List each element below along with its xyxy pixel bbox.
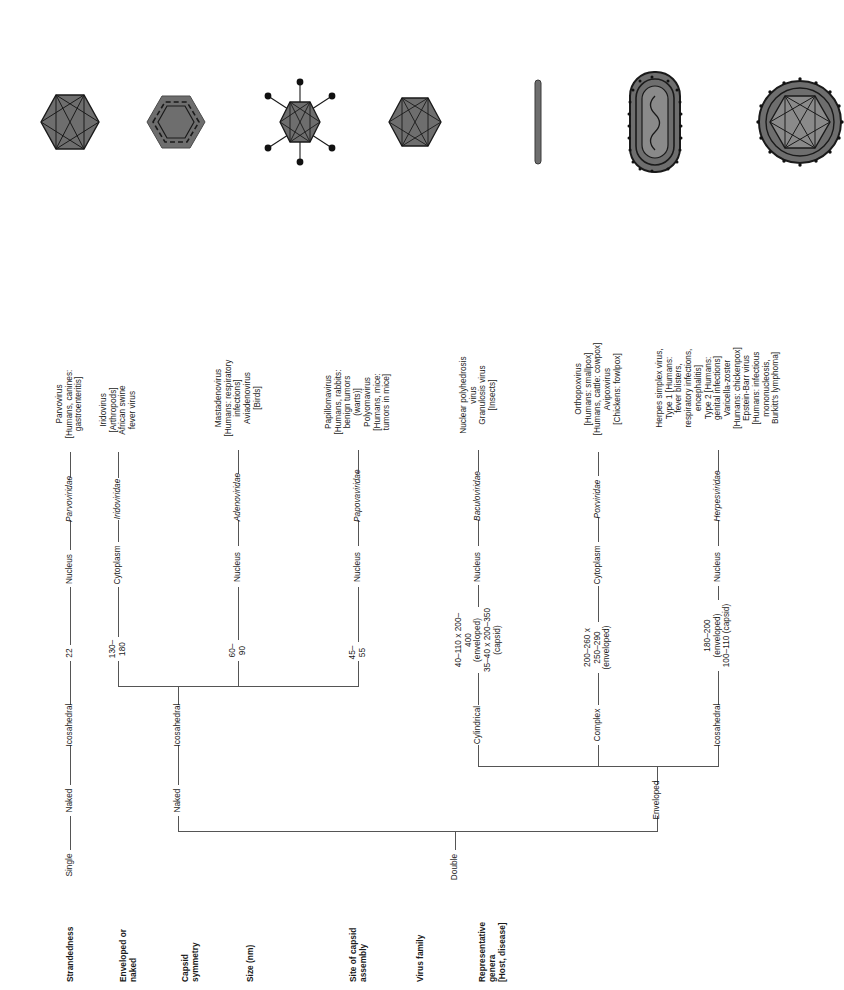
node-strandedness-single: Single — [65, 848, 75, 882]
connector-double-naked — [178, 816, 179, 832]
row-header-size: Size (nm) — [245, 890, 255, 982]
connector-herpesviridae-assembly-family — [718, 520, 719, 546]
connector-naked-icosahedral-double — [178, 745, 179, 785]
row-header-representative-genera: Representative genera [Host, disease] — [477, 890, 507, 982]
connector-fan-to-complex — [598, 745, 599, 767]
node-assembly-iridoviridae: Cytoplasm — [113, 542, 123, 588]
node-symmetry-icosahedral-enveloped: Icosahedral — [713, 702, 723, 748]
node-genera-adenoviridae: Mastadenovirus [Humans: respiratory infe… — [214, 346, 263, 450]
node-assembly-adenoviridae: Nucleus — [233, 546, 243, 588]
connector-size-nucleus — [70, 587, 71, 645]
connector-herpesviridae-family-genera — [718, 450, 719, 472]
node-size-poxviridae: 200–260 x 250–290 (enveloped) — [583, 621, 612, 674]
connector-papovaviridae-assembly-family — [358, 520, 359, 546]
node-symmetry-icosahedral-single: Icosahedral — [65, 702, 75, 748]
connector-fan-to-icosahedral-env — [718, 745, 719, 767]
connector-adenoviridae-size-assembly — [238, 587, 239, 640]
shape-icon-parvoviridae-icosahedron — [39, 89, 101, 155]
node-size-iridoviridae: 130–180 — [108, 636, 127, 662]
connector-complex-size — [598, 673, 599, 705]
row-header-virus-family: Virus family — [415, 890, 425, 982]
node-symmetry-cylindrical: Cylindrical — [473, 702, 483, 748]
connector-baculoviridae-assembly-family — [478, 520, 479, 546]
node-assembly-poxviridae: Cytoplasm — [593, 542, 603, 588]
shape-icon-herpesviridae-enveloped-icosahedron — [756, 76, 844, 168]
node-family-poxviridae: Poxviridae — [593, 476, 603, 522]
node-assembly-papovaviridae: Nucleus — [353, 546, 363, 588]
node-genera-baculoviridae: Nuclear polyhedrosis virus Granulosis vi… — [459, 340, 498, 450]
node-family-papovaviridae: Papovaviridae — [353, 472, 363, 522]
connector-baculoviridae-family-genera — [478, 450, 479, 472]
connector-herpesviridae-size-assembly — [718, 586, 719, 600]
shape-icon-iridoviridae-layered-hexagon — [145, 90, 207, 154]
node-symmetry-icosahedral-naked: Icosahedral — [173, 702, 183, 748]
node-family-parvoviridae: Parvoviridae — [65, 476, 75, 522]
connector-naked-icosahedral — [70, 745, 71, 785]
node-genera-iridoviridae: Iridovirus [Arthropods] African swine fe… — [99, 368, 138, 452]
node-envelope-naked-single: Naked — [65, 783, 75, 818]
connector-family-genera — [70, 452, 71, 478]
connector-baculoviridae-size-assembly — [478, 585, 479, 607]
connector-poxviridae-family-genera — [598, 452, 599, 476]
connector-iridoviridae-family-genera — [118, 452, 119, 478]
node-strandedness-double: Double — [450, 848, 460, 886]
connector-nucleus-family — [70, 520, 71, 550]
node-genera-herpesviridae: Herpes simplex virus, Type 1 [Humans: fe… — [655, 326, 781, 450]
node-size-papovaviridae: 45–55 — [348, 641, 367, 664]
connector-iridoviridae-assembly-family — [118, 520, 119, 542]
node-family-iridoviridae: Iridoviridae — [113, 476, 123, 522]
connector-single-naked — [70, 816, 71, 850]
connector-papovaviridae-size-assembly — [358, 587, 359, 642]
connector-double-vertical — [178, 831, 657, 832]
connector-cylindrical-size — [478, 673, 479, 705]
shape-icon-poxviridae-brick — [624, 70, 686, 174]
node-genera-papovaviridae: Papillomavirus [Humans, rabbits: benign … — [324, 354, 392, 450]
connector-fan-to-60-90 — [238, 661, 239, 687]
node-size-parvoviridae: 22 — [65, 644, 75, 662]
row-header-strandedness: Strandedness — [65, 890, 75, 982]
node-size-adenoviridae: 60–90 — [228, 639, 247, 662]
row-header-enveloped-or-naked: Enveloped or naked — [118, 890, 138, 982]
connector-adenoviridae-assembly-family — [238, 520, 239, 546]
shape-icon-adenoviridae-fibered-icosahedron — [258, 76, 342, 168]
connector-fan-to-45-55 — [358, 661, 359, 687]
node-family-herpesviridae: Herpesviridae — [713, 470, 723, 522]
connector-adenoviridae-family-genera — [238, 450, 239, 474]
connector-fan-to-130-180 — [118, 661, 119, 687]
node-envelope-naked-double: Naked — [173, 783, 183, 818]
row-header-capsid-symmetry: Capsid symmetry — [180, 890, 200, 982]
node-family-baculoviridae: Baculoviridae — [473, 470, 483, 522]
node-envelope-enveloped: Enveloped — [652, 776, 662, 824]
connector-icosahedral-env-size — [718, 671, 719, 705]
node-size-baculoviridae: 40–110 x 200–400 (enveloped) 35–40 x 200… — [454, 606, 503, 674]
node-assembly-baculoviridae: Nucleus — [473, 546, 483, 588]
connector-iridoviridae-size-assembly — [118, 587, 119, 637]
row-header-site-of-capsid-assembly: Site of capsid assembly — [348, 890, 368, 982]
node-family-adenoviridae: Adenoviridae — [233, 472, 243, 522]
connector-fan-to-cylindrical — [478, 745, 479, 767]
shape-icon-papovaviridae-icosahedron — [387, 93, 443, 151]
node-genera-parvoviridae: Parvovirus [Humans, canines: gastroenter… — [55, 356, 84, 452]
node-symmetry-complex: Complex — [593, 702, 603, 748]
connector-poxviridae-size-assembly — [598, 586, 599, 622]
shape-icon-baculoviridae-rod — [532, 79, 544, 165]
node-assembly-herpesviridae: Nucleus — [713, 546, 723, 588]
node-genera-poxviridae: Orthopoxvirus [Humans: smallpox] [Humans… — [574, 326, 623, 452]
node-assembly-parvoviridae: Nucleus — [65, 550, 75, 588]
connector-icosahedral-size — [70, 661, 71, 705]
node-size-herpesviridae: 180–200 (enveloped) 100–110 (capsid) — [703, 599, 732, 672]
